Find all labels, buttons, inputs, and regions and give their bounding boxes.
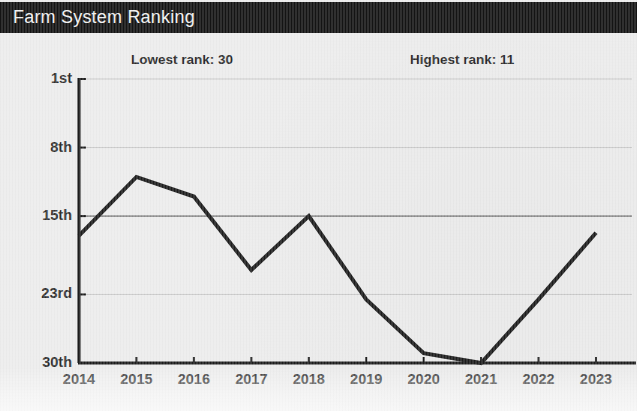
y-axis-label-8th: 8th <box>14 139 72 155</box>
annotation-lowest-rank: Lowest rank: 30 <box>131 52 233 67</box>
x-axis-label-2020: 2020 <box>394 371 454 387</box>
ranking-line <box>79 177 596 363</box>
x-axis-label-2019: 2019 <box>336 371 396 387</box>
y-axis-label-1st: 1st <box>14 70 72 86</box>
y-axis-label-15th: 15th <box>14 207 72 223</box>
y-axis-label-23rd: 23rd <box>14 285 72 301</box>
y-axis-label-30th: 30th <box>14 354 72 370</box>
gridlines <box>79 79 632 363</box>
x-axis-label-2022: 2022 <box>509 371 569 387</box>
x-axis-label-2015: 2015 <box>106 371 166 387</box>
chart-page: Farm System Ranking Lowest rank: 30 High… <box>0 0 637 411</box>
axis-lines <box>78 78 636 363</box>
x-axis-label-2016: 2016 <box>164 371 224 387</box>
series-line <box>79 177 596 363</box>
x-axis-label-2018: 2018 <box>279 371 339 387</box>
x-axis-label-2023: 2023 <box>566 371 626 387</box>
x-axis-label-2014: 2014 <box>49 371 109 387</box>
ranking-line-chart <box>0 0 637 411</box>
annotation-highest-rank: Highest rank: 11 <box>410 52 514 67</box>
x-axis-label-2021: 2021 <box>451 371 511 387</box>
x-axis-label-2017: 2017 <box>221 371 281 387</box>
